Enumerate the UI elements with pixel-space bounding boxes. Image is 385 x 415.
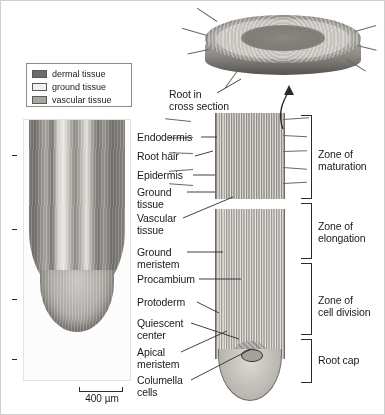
root-hair-icon bbox=[169, 183, 193, 186]
root-elongation-division-region bbox=[215, 209, 285, 359]
legend-item-ground-tissue: ground tissue bbox=[32, 81, 126, 93]
label-zone-of-cell-division: Zone of cell division bbox=[318, 295, 370, 318]
bracket-zone-cell-division bbox=[301, 263, 312, 335]
label-epidermis: Epidermis bbox=[137, 170, 183, 182]
bracket-tick-elongation bbox=[12, 229, 17, 230]
root-hair-icon bbox=[197, 8, 217, 22]
legend-item-vascular-tissue: vascular tissue bbox=[32, 94, 126, 106]
root-hair-icon bbox=[355, 25, 376, 32]
root-hair-icon bbox=[182, 28, 207, 36]
root-tip-micrograph bbox=[23, 119, 131, 381]
tissue-legend: dermal tissue ground tissue vascular tis… bbox=[26, 63, 132, 107]
legend-label-vascular: vascular tissue bbox=[52, 96, 112, 105]
root-cross-section-disk bbox=[197, 5, 373, 89]
bracket-tick-cell-division bbox=[12, 299, 17, 300]
bracket-tick-maturation bbox=[12, 155, 17, 156]
legend-swatch-vascular bbox=[32, 96, 47, 104]
legend-label-ground: ground tissue bbox=[52, 83, 106, 92]
legend-swatch-ground bbox=[32, 83, 47, 91]
label-columella-cells: Columella cells bbox=[137, 375, 183, 398]
legend-item-dermal-tissue: dermal tissue bbox=[32, 68, 126, 80]
legend-label-dermal: dermal tissue bbox=[52, 70, 106, 79]
label-protoderm: Protoderm bbox=[137, 297, 185, 309]
bracket-zone-elongation bbox=[301, 203, 312, 259]
label-vascular-tissue: Vascular tissue bbox=[137, 213, 176, 236]
legend-swatch-dermal bbox=[32, 70, 47, 78]
root-maturation-region bbox=[215, 113, 285, 201]
label-root-cap: Root cap bbox=[318, 355, 359, 367]
bracket-zone-root-cap bbox=[301, 339, 312, 383]
label-ground-meristem: Ground meristem bbox=[137, 247, 179, 270]
root-anatomy-figure: dermal tissue ground tissue vascular tis… bbox=[0, 0, 385, 415]
micrograph-texture bbox=[24, 120, 130, 380]
cross-section-callout: Root in cross section bbox=[169, 89, 243, 112]
scale-bar-label: 400 µm bbox=[69, 393, 135, 404]
label-root-hair: Root hair bbox=[137, 151, 179, 163]
root-hair-icon bbox=[225, 71, 238, 88]
label-ground-tissue: Ground tissue bbox=[137, 187, 171, 210]
label-apical-meristem: Apical meristem bbox=[137, 347, 179, 370]
disk-stele bbox=[241, 25, 325, 51]
bracket-tick-root-cap bbox=[12, 359, 17, 360]
quiescent-center-region bbox=[241, 349, 263, 362]
root-longitudinal-section bbox=[201, 113, 297, 389]
label-zone-of-maturation: Zone of maturation bbox=[318, 149, 367, 172]
label-procambium: Procambium bbox=[137, 274, 195, 286]
label-zone-of-elongation: Zone of elongation bbox=[318, 221, 365, 244]
root-hair-icon bbox=[165, 118, 191, 122]
scale-bar bbox=[79, 387, 123, 392]
label-quiescent-center: Quiescent center bbox=[137, 318, 183, 341]
bracket-zone-maturation bbox=[301, 115, 312, 199]
label-endodermis: Endodermis bbox=[137, 132, 192, 144]
